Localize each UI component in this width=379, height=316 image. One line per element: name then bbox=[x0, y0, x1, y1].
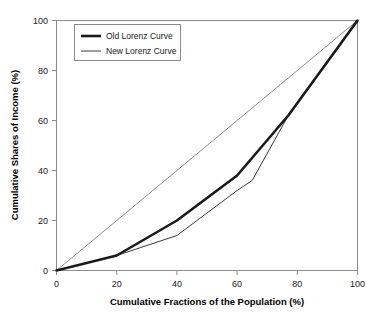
x-tick-label-20: 20 bbox=[112, 279, 122, 289]
y-tick-label-100: 100 bbox=[33, 16, 48, 26]
x-tick-label-100: 100 bbox=[350, 279, 365, 289]
x-tick-label-40: 40 bbox=[172, 279, 182, 289]
x-tick-label-60: 60 bbox=[232, 279, 242, 289]
x-axis-title: Cumulative Fractions of the Population (… bbox=[110, 296, 304, 307]
legend-label-new-lorenz-curve: New Lorenz Curve bbox=[106, 46, 177, 56]
y-tick-label-40: 40 bbox=[38, 166, 48, 176]
legend-label-old-lorenz-curve: Old Lorenz Curve bbox=[106, 31, 173, 41]
chart-svg: 100 80 60 40 20 0 0 20 40 60 80 100 Cumu… bbox=[0, 0, 379, 316]
legend: Old Lorenz Curve New Lorenz Curve bbox=[75, 25, 181, 61]
y-tick-label-20: 20 bbox=[38, 216, 48, 226]
x-tick-label-80: 80 bbox=[292, 279, 302, 289]
y-tick-label-80: 80 bbox=[38, 66, 48, 76]
x-tick-label-0: 0 bbox=[54, 279, 59, 289]
y-tick-label-0: 0 bbox=[43, 266, 48, 276]
y-tick-label-60: 60 bbox=[38, 116, 48, 126]
lorenz-curve-chart: 100 80 60 40 20 0 0 20 40 60 80 100 Cumu… bbox=[0, 0, 379, 316]
y-axis-title: Cumulative Shares of Income (%) bbox=[9, 70, 20, 220]
